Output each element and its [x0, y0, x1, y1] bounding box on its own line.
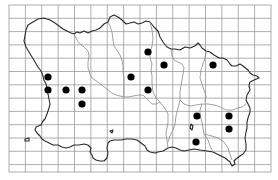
record-dot: [144, 48, 151, 55]
record-dot: [78, 100, 85, 107]
record-dot: [78, 86, 85, 93]
record-dot: [44, 73, 51, 80]
record-dot: [209, 61, 216, 68]
record-dot: [62, 86, 69, 93]
record-dot: [192, 138, 199, 145]
record-dot: [160, 61, 167, 68]
record-dot: [225, 125, 232, 132]
distribution-map: [0, 0, 278, 180]
record-dot: [44, 86, 51, 93]
record-dot: [193, 112, 200, 119]
record-dot: [225, 112, 232, 119]
record-dot: [144, 86, 151, 93]
record-dot: [127, 73, 134, 80]
